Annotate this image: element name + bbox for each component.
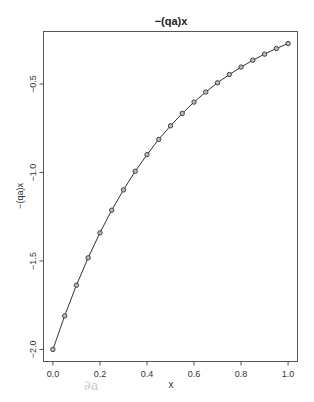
data-point-marker (133, 169, 137, 173)
data-point-marker (62, 314, 66, 318)
data-point-marker (74, 283, 78, 287)
y-axis: −2.0−1.5−1.0−0.5 (28, 75, 44, 358)
data-point-marker (157, 137, 161, 141)
data-point-marker (51, 347, 55, 351)
x-tick-label: 0.2 (94, 369, 107, 379)
y-tick-label: −1.0 (28, 164, 38, 182)
y-tick-label: −0.5 (28, 75, 38, 93)
x-axis: 0.00.20.40.60.81.0 (47, 362, 295, 379)
y-tick-label: −1.5 (28, 252, 38, 270)
data-point-marker (121, 188, 125, 192)
x-tick-label: 1.0 (282, 369, 295, 379)
data-point-marker (145, 152, 149, 156)
x-tick-label: 0.8 (235, 369, 248, 379)
x-axis-label: x (169, 379, 174, 390)
series-line (53, 44, 288, 350)
x-tick-label: 0.6 (188, 369, 201, 379)
plot-frame (44, 32, 298, 362)
data-point-marker (215, 81, 219, 85)
data-point-marker (251, 58, 255, 62)
data-point-marker (86, 256, 90, 260)
stray-glyph: ∂a (84, 378, 98, 393)
x-tick-label: 0.4 (141, 369, 154, 379)
data-point-marker (286, 41, 290, 45)
data-point-marker (110, 208, 114, 212)
data-point-marker (262, 52, 266, 56)
series-markers (51, 41, 291, 351)
data-point-marker (239, 65, 243, 69)
data-point-marker (98, 231, 102, 235)
y-axis-label: −(qa)x (15, 183, 25, 209)
data-point-marker (180, 111, 184, 115)
data-point-marker (274, 46, 278, 50)
data-point-marker (204, 90, 208, 94)
data-point-marker (168, 124, 172, 128)
chart-title: −(qa)x (155, 15, 189, 27)
data-point-marker (192, 100, 196, 104)
data-point-marker (227, 72, 231, 76)
y-tick-label: −2.0 (28, 341, 38, 359)
line-chart: −(qa)x 0.00.20.40.60.81.0 −2.0−1.5−1.0−0… (0, 0, 314, 402)
x-tick-label: 0.0 (47, 369, 60, 379)
